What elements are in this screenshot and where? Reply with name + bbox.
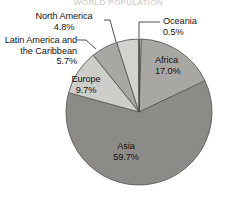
label-asia-value: 59.7% — [98, 152, 154, 163]
label-africa-value: 17.0% — [155, 66, 215, 77]
label-latin-america-name-line2: the Caribbean — [1, 46, 77, 57]
leader-line-latin-america — [77, 40, 96, 49]
leader-line-north-america — [104, 20, 116, 42]
label-asia: Asia 59.7% — [98, 141, 154, 162]
clipped-chart-title: WORLD POPULATION — [0, 0, 237, 5]
label-oceania-name: Oceania — [163, 16, 197, 26]
label-latin-america-name-line1: Latin America and — [5, 35, 77, 45]
label-europe: Europe 9.7% — [58, 74, 114, 95]
label-europe-name: Europe — [71, 74, 100, 84]
label-oceania: Oceania 0.5% — [163, 16, 227, 37]
pie-chart: WORLD POPULATION North America 4.8% Lati… — [0, 0, 237, 208]
label-north-america: North America 4.8% — [24, 11, 104, 32]
label-africa: Africa 17.0% — [155, 55, 215, 76]
label-europe-value: 9.7% — [58, 85, 114, 96]
label-north-america-value: 4.8% — [24, 22, 104, 33]
label-latin-america-value: 5.7% — [1, 56, 77, 67]
label-africa-name: Africa — [155, 55, 178, 65]
label-latin-america: Latin America and the Caribbean 5.7% — [1, 35, 77, 67]
leader-line-oceania — [139, 22, 160, 38]
label-asia-name: Asia — [117, 141, 135, 151]
label-north-america-name: North America — [35, 11, 92, 21]
label-oceania-value: 0.5% — [163, 27, 227, 38]
